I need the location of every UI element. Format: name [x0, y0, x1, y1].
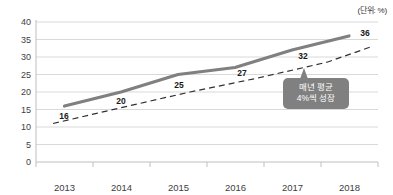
- data-label-point: 32: [298, 51, 307, 61]
- x-tick-label: 2013: [54, 182, 75, 193]
- data-label-point: 25: [174, 80, 183, 90]
- data-label-point: 36: [360, 28, 369, 38]
- data-label-point: 20: [116, 96, 125, 106]
- x-tick-label: 2017: [282, 182, 303, 193]
- data-label-point: 16: [59, 111, 68, 121]
- x-tick-label: 2014: [111, 182, 132, 193]
- x-tick-label: 2018: [339, 182, 360, 193]
- growth-callout: 매년 평균 4%씩 성장: [283, 78, 349, 109]
- callout-line-1: 매년 평균: [288, 82, 344, 93]
- line-chart: (단위: %) 40 35 30 25 20 15 10 5 0: [0, 0, 393, 195]
- x-axis-ticks: [36, 162, 378, 167]
- data-label-point: 27: [237, 68, 246, 78]
- callout-line-2: 4%씩 성장: [288, 93, 344, 104]
- x-tick-label: 2016: [225, 182, 246, 193]
- x-tick-label: 2015: [168, 182, 189, 193]
